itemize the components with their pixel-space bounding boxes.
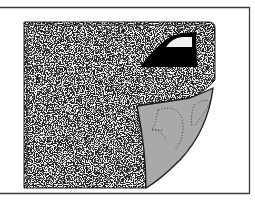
illustration bbox=[0, 0, 255, 205]
fabric-iron-illustration bbox=[0, 0, 255, 205]
